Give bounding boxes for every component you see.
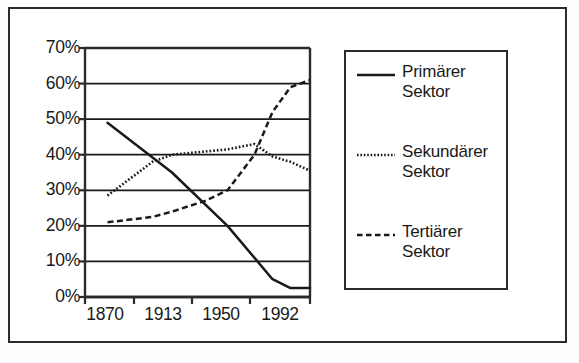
legend-item-tertiary: TertiärerSektor bbox=[346, 224, 510, 262]
legend-label-primary-line2: Sektor bbox=[402, 82, 450, 101]
x-axis-tick-label: 1913 bbox=[133, 306, 193, 324]
legend-label-tertiary-line2: Sektor bbox=[402, 242, 450, 261]
legend-item-secondary: SekundärerSektor bbox=[346, 144, 510, 182]
legend-label-tertiary-line1: Tertiärer bbox=[402, 222, 463, 241]
x-axis-tick-label: 1870 bbox=[75, 306, 135, 324]
x-axis-tick-label: 1992 bbox=[250, 306, 310, 324]
legend-label-tertiary: TertiärerSektor bbox=[402, 222, 463, 262]
legend-swatch-dotted-icon bbox=[356, 144, 396, 166]
legend-label-primary-line1: Primärer bbox=[402, 62, 466, 81]
figure-root: 0%10%20%30%40%50%60%70% 1870191319501992… bbox=[0, 0, 579, 363]
x-axis-tick-label: 1950 bbox=[191, 306, 251, 324]
legend-swatch-solid-icon bbox=[356, 64, 396, 86]
legend-label-primary: PrimärerSektor bbox=[402, 62, 466, 102]
legend-label-secondary-line1: Sekundärer bbox=[402, 142, 488, 161]
legend-item-primary: PrimärerSektor bbox=[346, 64, 510, 102]
legend-label-secondary: SekundärerSektor bbox=[402, 142, 488, 182]
legend-label-secondary-line2: Sektor bbox=[402, 162, 450, 181]
legend-swatch-dashed-icon bbox=[356, 224, 396, 246]
chart-legend: PrimärerSektor SekundärerSektor Tertiäre… bbox=[344, 50, 508, 290]
